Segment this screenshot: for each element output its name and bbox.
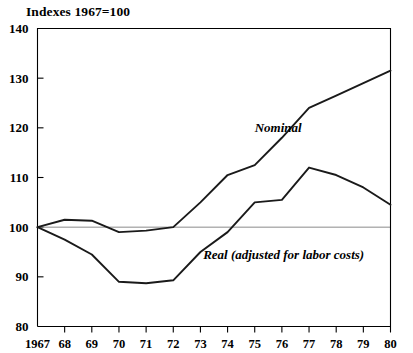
- series-annotation-label: Real (adjusted for labor costs): [202, 247, 364, 262]
- y-axis-tick-group: 8090100110120130140: [9, 21, 44, 334]
- y-axis-tick-label: 90: [16, 269, 29, 284]
- x-axis-tick-label: 71: [140, 337, 153, 351]
- x-axis-tick-label: 68: [58, 337, 71, 351]
- plot-frame: [38, 29, 391, 327]
- line-chart-plot: 8090100110120130140 19676869707172737475…: [0, 0, 413, 353]
- x-axis-tick-label: 69: [86, 337, 99, 351]
- y-axis-tick-label: 120: [9, 120, 29, 135]
- x-axis-tick-label: 79: [357, 337, 370, 351]
- x-axis-tick-label: 72: [167, 337, 180, 351]
- y-axis-tick-label: 80: [16, 319, 29, 334]
- series-annotation-label: Nominal: [254, 120, 302, 135]
- y-axis-tick-label: 110: [10, 170, 29, 185]
- series-line-real: [38, 168, 391, 284]
- x-axis-tick-label: 78: [330, 337, 343, 351]
- y-axis-tick-label: 130: [9, 71, 29, 86]
- x-axis-tick-label: 70: [113, 337, 126, 351]
- series-line-nominal: [38, 71, 391, 232]
- x-axis-tick-group: 196768697071727374757677787980: [25, 327, 397, 351]
- x-axis-tick-label: 1967: [25, 337, 50, 351]
- series-annotation-group: NominalReal (adjusted for labor costs): [202, 120, 364, 262]
- y-axis-tick-label: 140: [9, 21, 29, 36]
- y-axis-tick-label: 100: [9, 220, 29, 235]
- x-axis-tick-label: 77: [303, 337, 316, 351]
- x-axis-tick-label: 73: [194, 337, 207, 351]
- x-axis-tick-label: 80: [384, 337, 397, 351]
- x-axis-tick-label: 74: [221, 337, 234, 351]
- x-axis-tick-label: 75: [248, 337, 261, 351]
- chart-figure: Indexes 1967=100 8090100110120130140 196…: [0, 0, 413, 353]
- x-axis-tick-label: 76: [276, 337, 289, 351]
